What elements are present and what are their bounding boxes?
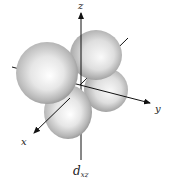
z-axis-label: z <box>77 0 84 11</box>
lobe-upper-left <box>16 42 78 104</box>
y-axis-label: y <box>154 103 161 114</box>
orbital-diagram: z y x dxz <box>0 0 173 186</box>
orbital-label: dxz <box>73 164 89 179</box>
x-axis-label: x <box>21 136 27 147</box>
orbital-label-subscript: xz <box>81 171 89 179</box>
